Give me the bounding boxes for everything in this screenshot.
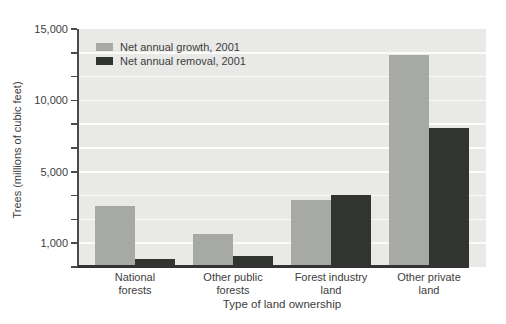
legend: Net annual growth, 2001Net annual remova…: [96, 40, 246, 68]
category-label: Other privateland: [369, 271, 489, 297]
y-axis-tick-label: 5,000: [18, 165, 68, 179]
legend-label: Net annual removal, 2001: [120, 54, 246, 68]
bar-growth-1: [95, 206, 135, 267]
bar-growth-2: [193, 234, 233, 267]
y-axis-tick-label: 1,000: [18, 236, 68, 250]
y-axis-line: [77, 29, 79, 268]
x-axis-title: Type of land ownership: [162, 298, 402, 310]
bar-chart-figure: Trees (millions of cubic feet) 15,00010,…: [0, 0, 506, 324]
legend-swatch-icon: [96, 57, 113, 65]
bar-growth-4: [389, 55, 429, 267]
y-axis-tick-label: 15,000: [18, 22, 68, 36]
legend-row: Net annual removal, 2001: [96, 54, 246, 68]
legend-swatch-icon: [96, 43, 113, 51]
y-axis-tick-label: 10,000: [18, 93, 68, 107]
legend-label: Net annual growth, 2001: [120, 40, 240, 54]
x-axis-line: [78, 265, 469, 268]
bar-removal-4: [429, 128, 469, 267]
legend-row: Net annual growth, 2001: [96, 40, 246, 54]
bar-removal-3: [331, 195, 371, 267]
bar-growth-3: [291, 200, 331, 267]
